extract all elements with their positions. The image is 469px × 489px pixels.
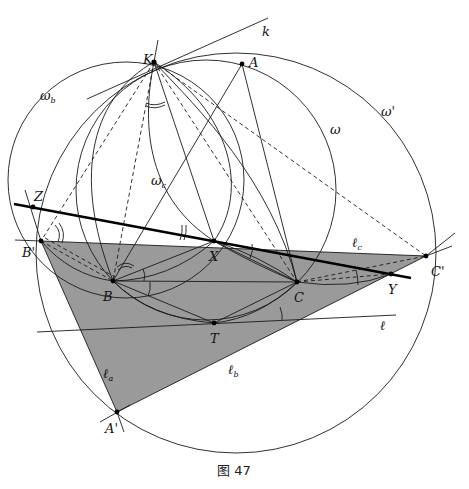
point-c	[295, 280, 300, 285]
line-cprime-ext	[426, 233, 455, 256]
angle-mark-x	[180, 225, 182, 240]
point-bprime	[39, 239, 44, 244]
line-k-vertical	[154, 40, 158, 62]
line-aprime-ext-2	[117, 412, 124, 432]
label-bprime: B'	[21, 245, 35, 260]
point-a	[240, 62, 245, 67]
label-y: Y	[388, 282, 398, 297]
point-t	[212, 321, 217, 326]
label-cprime: C'	[431, 264, 445, 279]
label-ell: ℓ	[380, 318, 386, 333]
angle-mark-x-2	[184, 225, 186, 240]
label-aprime: A'	[104, 421, 118, 436]
figure-caption: 图 47	[217, 463, 251, 478]
label-a: A	[248, 55, 258, 70]
label-k: K	[142, 52, 154, 67]
point-cprime	[424, 254, 429, 259]
label-t: T	[210, 331, 220, 346]
shaded-triangle-a-b-c-prime	[41, 241, 426, 412]
label-b: B	[102, 289, 113, 304]
line-cprime-ext-2	[426, 246, 452, 256]
label-omega: ω	[330, 122, 341, 137]
label-ell-b: ℓb	[228, 362, 239, 379]
point-aprime	[115, 410, 120, 415]
point-z	[31, 205, 36, 210]
line-bprime-ext	[15, 240, 41, 241]
label-x: X	[208, 249, 219, 264]
label-omega-b: ωb	[40, 88, 56, 105]
label-omega-prime: ω'	[381, 104, 395, 119]
label-omega-c: ωc	[151, 173, 167, 190]
point-y	[389, 272, 394, 277]
point-x	[212, 239, 217, 244]
label-ell-c: ℓc	[352, 235, 362, 252]
segment-k-x	[154, 62, 214, 241]
point-b	[111, 279, 116, 284]
arc-k-x	[154, 62, 231, 241]
label-c: C	[294, 290, 304, 305]
angle-mark-bprime	[55, 225, 59, 242]
geometry-figure: K A Z B' X B C T Y C' A' k ω ω' ωb ωc ℓ …	[0, 0, 469, 489]
label-z: Z	[33, 189, 44, 204]
label-k-tangent: k	[262, 24, 270, 39]
